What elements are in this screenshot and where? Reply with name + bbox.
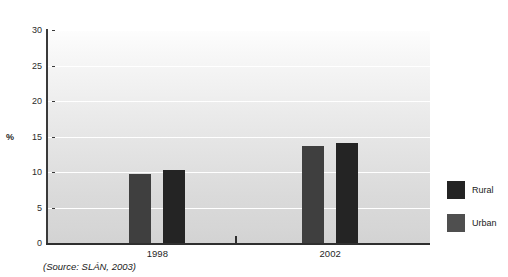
y-tick-label: 5 bbox=[14, 204, 42, 213]
y-tick-mark bbox=[52, 30, 55, 31]
legend-swatch-urban bbox=[446, 213, 466, 233]
y-axis-title: % bbox=[6, 133, 14, 142]
bar-chart-figure: 051015202530 % RuralUrban (Source: SLÁN,… bbox=[0, 0, 508, 277]
gridline bbox=[46, 172, 430, 173]
x-tick-label-2002: 2002 bbox=[305, 249, 355, 259]
legend-item-rural[interactable]: Rural bbox=[446, 180, 508, 213]
legend-label-rural: Rural bbox=[472, 185, 494, 195]
y-axis-line bbox=[46, 29, 48, 244]
bar-rural-1998 bbox=[129, 174, 151, 243]
y-tick-label: 20 bbox=[14, 97, 42, 106]
plot-area bbox=[46, 30, 430, 243]
bar-urban-1998 bbox=[163, 170, 185, 243]
gridline bbox=[46, 30, 430, 31]
y-tick-mark bbox=[52, 101, 55, 102]
bar-rural-2002 bbox=[302, 146, 324, 243]
legend-item-urban[interactable]: Urban bbox=[446, 213, 508, 246]
bar-urban-2002 bbox=[336, 143, 358, 243]
gridline bbox=[46, 137, 430, 138]
gridline bbox=[46, 208, 430, 209]
y-tick-label: 25 bbox=[14, 62, 42, 71]
x-axis-center-tick bbox=[235, 236, 237, 245]
x-tick-label-1998: 1998 bbox=[132, 249, 182, 259]
legend-label-urban: Urban bbox=[472, 218, 497, 228]
chart-legend: RuralUrban bbox=[446, 180, 508, 246]
y-tick-label: 10 bbox=[14, 168, 42, 177]
x-axis-line bbox=[46, 243, 430, 245]
y-tick-label: 0 bbox=[14, 239, 42, 248]
y-tick-mark bbox=[52, 137, 55, 138]
y-tick-label: 30 bbox=[14, 26, 42, 35]
y-tick-mark bbox=[52, 172, 55, 173]
source-note: (Source: SLÁN, 2003) bbox=[43, 261, 136, 272]
gridline bbox=[46, 66, 430, 67]
legend-swatch-rural bbox=[446, 180, 466, 200]
gridline bbox=[46, 101, 430, 102]
y-tick-label: 15 bbox=[14, 133, 42, 142]
y-tick-mark bbox=[52, 208, 55, 209]
y-tick-mark bbox=[52, 66, 55, 67]
